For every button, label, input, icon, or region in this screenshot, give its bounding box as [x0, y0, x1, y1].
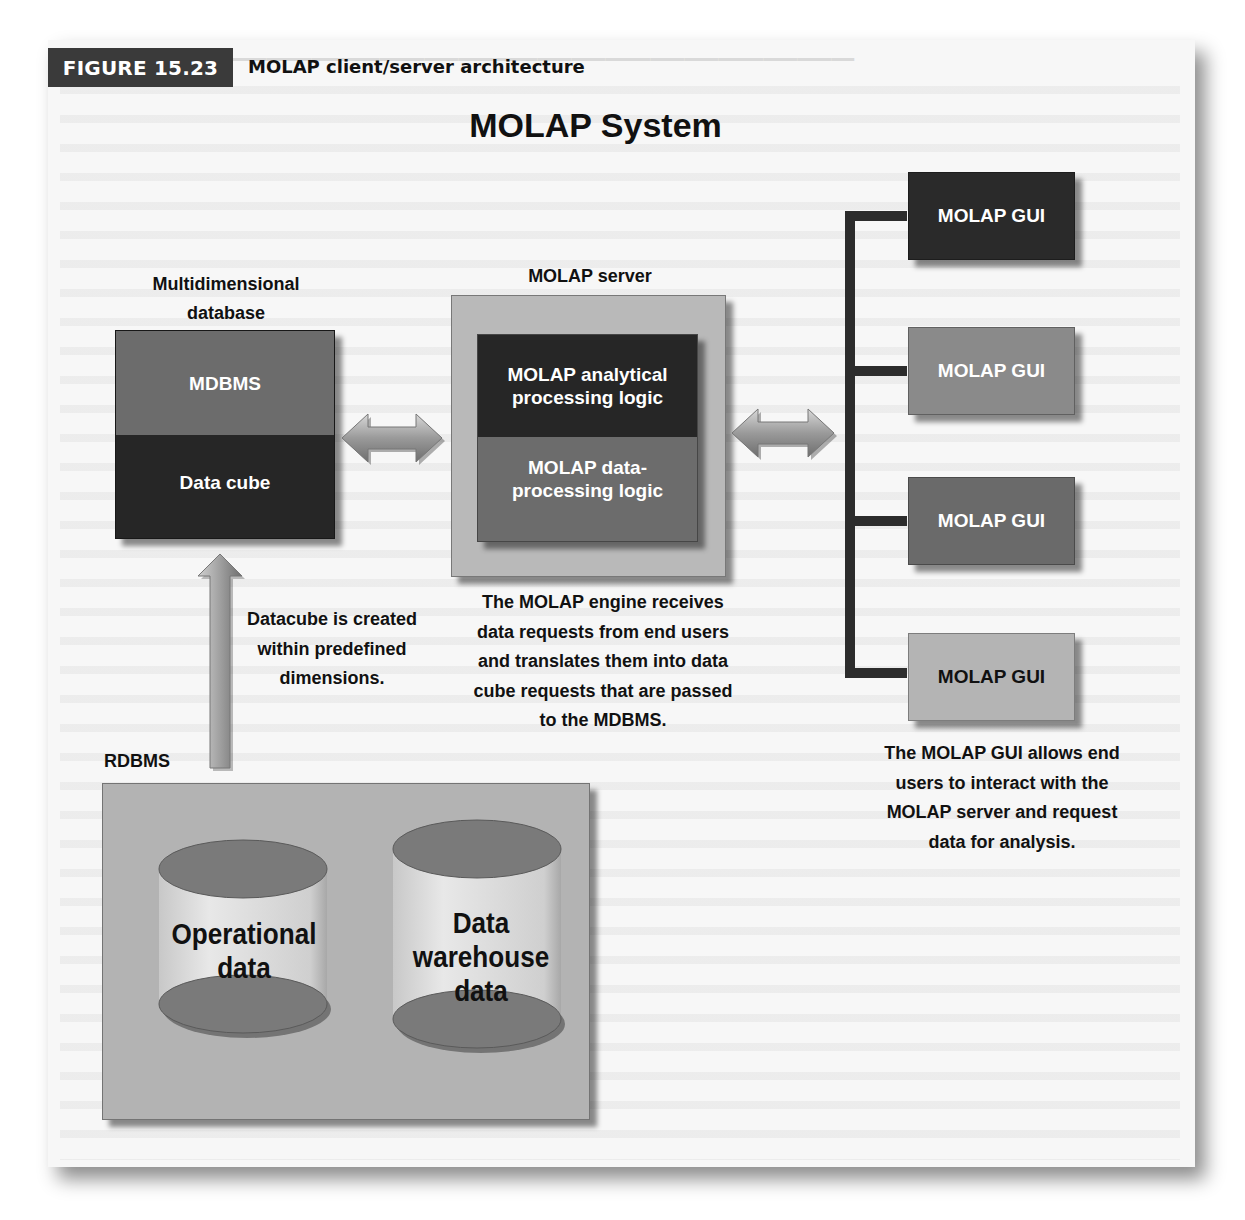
gui-desc-line: users to interact with the: [852, 769, 1152, 799]
engine-desc-line: cube requests that are passed: [445, 677, 761, 707]
bidirectional-arrow-icon: [728, 405, 840, 461]
data-warehouse-label: Data warehouse data: [402, 906, 560, 1008]
gui-desc-line: data for analysis.: [852, 828, 1152, 858]
datacube-note-line: dimensions.: [232, 664, 432, 694]
connector-branch: [845, 668, 907, 678]
data-processing-logic-line1: MOLAP data-: [478, 456, 697, 479]
connector-bus-vertical: [845, 211, 855, 678]
engine-desc-line: data requests from end users: [445, 618, 761, 648]
store-label-line: data: [168, 951, 321, 985]
molap-gui-description: The MOLAP GUI allows end users to intera…: [852, 739, 1152, 857]
analytical-logic-line2: processing logic: [478, 386, 697, 409]
store-label-line: Data: [402, 906, 560, 940]
engine-desc-line: to the MDBMS.: [445, 706, 761, 736]
mdbms-label: MDBMS: [116, 372, 334, 395]
molap-server-heading: MOLAP server: [452, 262, 728, 291]
molap-server-core: MOLAP analytical processing logic MOLAP …: [477, 334, 698, 542]
data-processing-logic-line2: processing logic: [478, 479, 697, 502]
molap-server-frame: MOLAP analytical processing logic MOLAP …: [451, 295, 726, 577]
store-label-line: warehouse: [402, 940, 560, 974]
molap-gui-client-3: MOLAP GUI: [908, 477, 1075, 565]
figure-number-badge: FIGURE 15.23: [48, 48, 233, 87]
mddb-heading-line1: Multidimensional: [112, 270, 340, 299]
gui-client-label: MOLAP GUI: [938, 510, 1045, 532]
gui-desc-line: MOLAP server and request: [852, 798, 1152, 828]
analytical-logic-label: MOLAP analytical processing logic: [478, 363, 697, 409]
mddb-heading-line2: database: [112, 299, 340, 328]
molap-gui-client-2: MOLAP GUI: [908, 327, 1075, 415]
connector-branch: [845, 516, 907, 526]
store-label-line: Operational: [168, 917, 321, 951]
mddb-heading: Multidimensional database: [112, 270, 340, 328]
connector-branch: [845, 211, 907, 221]
data-processing-logic-label: MOLAP data- processing logic: [478, 456, 697, 502]
analytical-logic-line1: MOLAP analytical: [478, 363, 697, 386]
gui-desc-line: The MOLAP GUI allows end: [852, 739, 1152, 769]
engine-desc-line: and translates them into data: [445, 647, 761, 677]
operational-data-label: Operational data: [168, 917, 321, 985]
multidimensional-database-box: MDBMS Data cube: [115, 330, 335, 539]
datacube-note-line: Datacube is created: [232, 605, 432, 635]
engine-desc-line: The MOLAP engine receives: [445, 588, 761, 618]
rdbms-panel: Operational data Data warehouse data: [102, 783, 590, 1120]
gui-client-label: MOLAP GUI: [938, 205, 1045, 227]
molap-gui-client-1: MOLAP GUI: [908, 172, 1075, 260]
figure-caption: MOLAP client/server architecture: [248, 56, 585, 77]
gui-client-label: MOLAP GUI: [938, 666, 1045, 688]
gui-client-label: MOLAP GUI: [938, 360, 1045, 382]
bidirectional-arrow-icon: [338, 410, 448, 466]
store-label-line: data: [402, 974, 560, 1008]
datacube-note: Datacube is created within predefined di…: [232, 605, 432, 694]
datacube-note-line: within predefined: [232, 635, 432, 665]
molap-gui-client-4: MOLAP GUI: [908, 633, 1075, 721]
connector-branch: [845, 366, 907, 376]
diagram-title: MOLAP System: [0, 106, 1218, 145]
data-cube-label: Data cube: [116, 471, 334, 494]
rdbms-heading: RDBMS: [104, 747, 170, 776]
molap-engine-description: The MOLAP engine receives data requests …: [445, 588, 761, 736]
